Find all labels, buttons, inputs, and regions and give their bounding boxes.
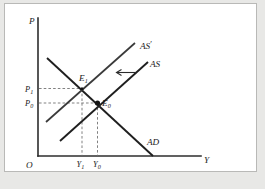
ad-as-diagram: P Y O AS′ AS AD E1 E0 P1 P0 bbox=[5, 4, 258, 173]
page-bottom-band bbox=[0, 174, 265, 189]
as-prime-curve bbox=[46, 43, 135, 122]
as-prime-label: AS′ bbox=[139, 40, 152, 51]
ad-label: AD bbox=[146, 137, 160, 147]
output-tick-y1-sub: 1 bbox=[81, 164, 84, 170]
y-axis-label: P bbox=[28, 16, 35, 26]
as-prime-label-prime: ′ bbox=[150, 40, 152, 49]
as-prime-label-base: AS bbox=[139, 41, 151, 51]
figure-sheet: P Y O AS′ AS AD E1 E0 P1 P0 bbox=[4, 3, 257, 172]
output-tick-y0: Y0 bbox=[93, 160, 101, 170]
as-label: AS bbox=[149, 59, 161, 69]
point-label-e0-sub: 0 bbox=[108, 103, 111, 109]
price-tick-p1: P1 bbox=[24, 85, 33, 95]
price-tick-p0: P0 bbox=[24, 99, 33, 109]
output-tick-y0-sub: 0 bbox=[98, 164, 101, 170]
equilibrium-dot-e1 bbox=[81, 87, 84, 90]
diagram-canvas: P Y O AS′ AS AD E1 E0 P1 P0 bbox=[5, 4, 258, 173]
price-tick-p1-sub: 1 bbox=[30, 89, 33, 95]
price-tick-p0-sub: 0 bbox=[30, 103, 33, 109]
figure-page: P Y O AS′ AS AD E1 E0 P1 P0 bbox=[0, 0, 265, 189]
point-label-e1-sub: 1 bbox=[85, 78, 88, 84]
point-label-e1: E1 bbox=[78, 73, 88, 84]
output-tick-y1: Y1 bbox=[77, 160, 85, 170]
origin-label: O bbox=[26, 160, 33, 170]
x-axis-label: Y bbox=[204, 155, 210, 165]
equilibrium-dot-e0 bbox=[95, 100, 100, 105]
point-label-e0: E0 bbox=[101, 98, 111, 109]
